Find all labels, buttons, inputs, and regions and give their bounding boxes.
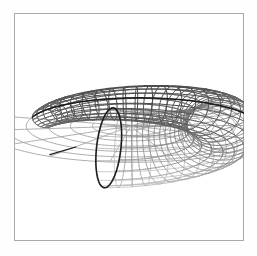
wireframe-surface-plot — [15, 14, 244, 241]
flat-sector-mesh — [15, 98, 244, 163]
figure-root — [0, 0, 257, 256]
plot-frame — [14, 13, 244, 241]
